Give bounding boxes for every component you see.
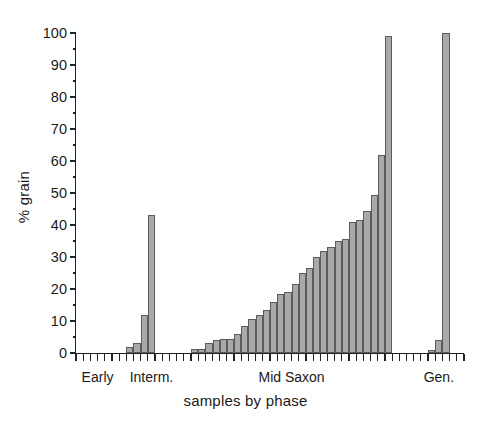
- y-tick-label: 20: [27, 281, 67, 297]
- y-tick-label: 100: [27, 25, 67, 41]
- bar: [342, 239, 349, 353]
- bar: [292, 284, 299, 353]
- x-tick: [442, 354, 443, 361]
- x-tick: [176, 354, 177, 361]
- x-tick: [262, 354, 263, 361]
- bar: [248, 319, 255, 353]
- y-tick-label: 0: [27, 345, 67, 361]
- x-tick: [406, 354, 407, 361]
- y-tick-label: 40: [27, 217, 67, 233]
- x-tick: [269, 354, 270, 361]
- bar: [363, 211, 370, 353]
- y-tick-label: 80: [27, 89, 67, 105]
- x-tick: [90, 354, 91, 361]
- x-tick: [420, 354, 421, 361]
- x-tick: [399, 354, 400, 361]
- x-tick: [97, 354, 98, 361]
- bar: [320, 251, 327, 353]
- x-tick: [147, 354, 148, 361]
- x-tick: [313, 354, 314, 361]
- x-tick: [119, 354, 120, 361]
- x-tick: [226, 354, 227, 361]
- y-tick-minor: [73, 112, 77, 113]
- y-tick-major: [70, 96, 76, 97]
- x-tick: [111, 354, 112, 361]
- y-tick-major: [70, 288, 76, 289]
- bar: [234, 334, 241, 353]
- bar: [299, 273, 306, 353]
- bar: [284, 292, 291, 353]
- x-tick: [219, 354, 220, 361]
- y-tick-major: [70, 320, 76, 321]
- x-tick: [291, 354, 292, 361]
- x-tick: [277, 354, 278, 361]
- x-tick: [348, 354, 349, 361]
- x-tick: [463, 354, 464, 361]
- x-tick: [241, 354, 242, 361]
- y-tick-label: 70: [27, 121, 67, 137]
- bar: [141, 315, 148, 353]
- y-tick-label: 30: [27, 249, 67, 265]
- x-tick: [162, 354, 163, 361]
- x-tick: [370, 354, 371, 361]
- x-category-label: Gen.: [424, 369, 454, 385]
- x-tick: [298, 354, 299, 361]
- y-tick-label: 60: [27, 153, 67, 169]
- bar: [442, 33, 449, 353]
- chart-figure: % grain samples by phase 010203040506070…: [0, 0, 491, 433]
- x-tick: [363, 354, 364, 361]
- x-axis-title: samples by phase: [0, 392, 491, 409]
- y-tick-major: [70, 160, 76, 161]
- bar: [349, 222, 356, 353]
- x-tick: [75, 354, 76, 361]
- x-tick: [427, 354, 428, 361]
- x-category-label: Early: [82, 369, 114, 385]
- bar: [198, 349, 205, 353]
- x-tick: [133, 354, 134, 361]
- bar: [205, 343, 212, 353]
- bar: [313, 257, 320, 353]
- y-tick-minor: [73, 144, 77, 145]
- bar: [428, 350, 435, 353]
- bar: [220, 339, 227, 353]
- x-tick: [198, 354, 199, 361]
- bar: [213, 340, 220, 353]
- x-category-label: Mid Saxon: [258, 369, 324, 385]
- bar: [277, 294, 284, 353]
- y-tick-label: 50: [27, 185, 67, 201]
- x-tick: [327, 354, 328, 361]
- x-tick: [183, 354, 184, 361]
- x-tick: [248, 354, 249, 361]
- x-tick: [334, 354, 335, 361]
- bar: [306, 268, 313, 353]
- x-tick: [356, 354, 357, 361]
- bar: [191, 349, 198, 353]
- y-tick-major: [70, 192, 76, 193]
- x-tick: [449, 354, 450, 361]
- x-tick: [212, 354, 213, 361]
- bar: [435, 340, 442, 353]
- y-tick-minor: [73, 176, 77, 177]
- x-tick: [126, 354, 127, 361]
- x-tick: [83, 354, 84, 361]
- x-tick: [320, 354, 321, 361]
- bar: [385, 36, 392, 353]
- bar: [327, 247, 334, 353]
- bar: [126, 347, 133, 353]
- bar: [371, 195, 378, 353]
- y-tick-major: [70, 224, 76, 225]
- y-tick-minor: [73, 240, 77, 241]
- bar: [270, 302, 277, 353]
- x-tick: [205, 354, 206, 361]
- y-tick-minor: [73, 304, 77, 305]
- bar: [263, 310, 270, 353]
- x-tick: [154, 354, 155, 361]
- y-tick-major: [70, 64, 76, 65]
- y-tick-major: [70, 128, 76, 129]
- y-tick-minor: [73, 208, 77, 209]
- y-tick-minor: [73, 272, 77, 273]
- x-category-label: Interm.: [130, 369, 174, 385]
- x-tick: [435, 354, 436, 361]
- x-tick: [104, 354, 105, 361]
- x-tick: [456, 354, 457, 361]
